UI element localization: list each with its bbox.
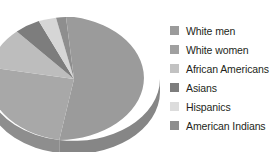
legend-item-white-women[interactable]: White women	[170, 40, 276, 59]
pie-chart-area	[0, 0, 165, 155]
legend-label-american-indians: American Indians	[186, 120, 266, 132]
legend-swatch-icon-white-men	[170, 26, 179, 35]
pie-chart-graphic	[0, 6, 160, 152]
pie-top-face	[0, 17, 144, 140]
legend-swatch-icon-white-women	[170, 45, 179, 54]
legend-item-african-americans[interactable]: African Americans	[170, 59, 276, 78]
legend-swatch-icon-hispanics	[170, 102, 179, 111]
legend-label-hispanics: Hispanics	[186, 101, 231, 113]
legend-label-white-men: White men	[186, 25, 235, 37]
legend-swatch-icon-asians	[170, 83, 179, 92]
legend-item-white-men[interactable]: White men	[170, 21, 276, 40]
legend-item-american-indians[interactable]: American Indians	[170, 116, 276, 135]
legend-item-asians[interactable]: Asians	[170, 78, 276, 97]
legend-label-african-americans: African Americans	[186, 63, 269, 75]
chart-legend: White men White women African Americans …	[170, 21, 276, 141]
pie-chart-screenshot: White men White women African Americans …	[0, 0, 276, 155]
legend-swatch-icon-african-americans	[170, 64, 179, 73]
legend-swatch-icon-american-indians	[170, 121, 179, 130]
legend-label-asians: Asians	[186, 82, 217, 94]
legend-item-hispanics[interactable]: Hispanics	[170, 97, 276, 116]
legend-label-white-women: White women	[186, 44, 249, 56]
